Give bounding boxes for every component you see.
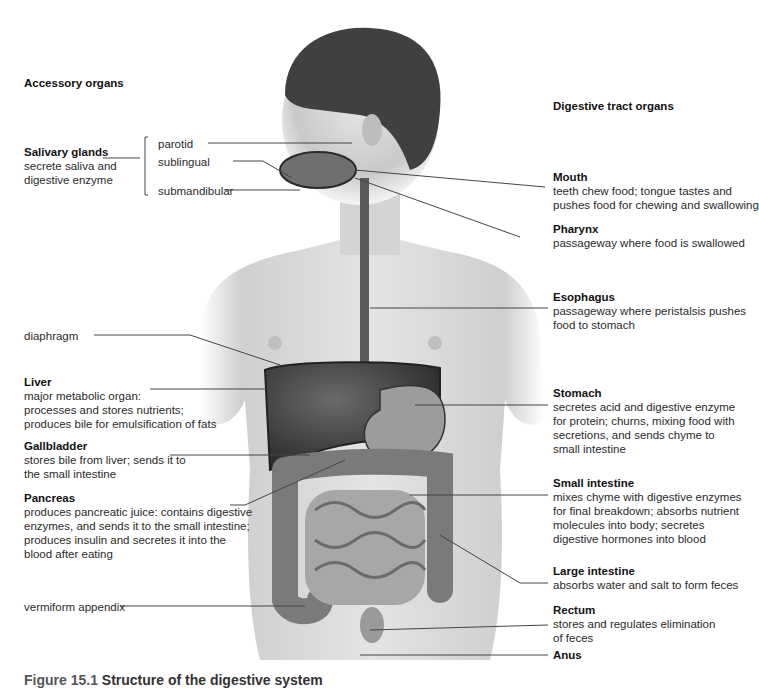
stomach-title: Stomach [553,386,735,400]
digestive-tract-heading: Digestive tract organs [553,100,674,112]
rectum-desc-1: stores and regulates elimination [553,617,715,631]
salivary-desc-1: secrete saliva and [24,159,117,173]
figure-number: Figure 15.1 [24,672,98,688]
mouth-title: Mouth [553,170,759,184]
gallbladder-desc-1: stores bile from liver; sends it to [24,453,186,467]
gallbladder-title: Gallbladder [24,439,186,453]
label-mouth: Mouth teeth chew food; tongue tastes and… [553,170,759,212]
stomach-desc-4: small intestine [553,442,735,456]
rectum-desc-2: of feces [553,631,715,645]
small-intestine-desc-2: for final breakdown; absorbs nutrient [553,504,742,518]
label-sublingual: sublingual [158,155,210,169]
pancreas-desc-1: produces pancreatic juice: contains dige… [24,505,252,519]
label-esophagus: Esophagus passageway where peristalsis p… [553,290,746,332]
esophagus-desc-2: food to stomach [553,318,746,332]
salivary-title: Salivary glands [24,145,117,159]
small-intestine-title: Small intestine [553,476,742,490]
small-intestine-desc-3: molecules into body; secretes [553,518,742,532]
label-small-intestine: Small intestine mixes chyme with digesti… [553,476,742,546]
pancreas-desc-3: produces insulin and secretes it into th… [24,533,252,547]
accessory-organs-heading: Accessory organs [24,77,124,89]
label-salivary-glands: Salivary glands secrete saliva and diges… [24,145,117,187]
large-intestine-title: Large intestine [553,564,738,578]
label-rectum: Rectum stores and regulates elimination … [553,603,715,645]
esophagus-desc-1: passageway where peristalsis pushes [553,304,746,318]
label-parotid: parotid [158,137,193,151]
mouth-desc-1: teeth chew food; tongue tastes and [553,184,759,198]
figure-caption: Figure 15.1 Structure of the digestive s… [24,672,323,688]
pancreas-title: Pancreas [24,491,252,505]
label-gallbladder: Gallbladder stores bile from liver; send… [24,439,186,481]
salivary-desc-2: digestive enzyme [24,173,117,187]
label-stomach: Stomach secretes acid and digestive enzy… [553,386,735,456]
rectum-title: Rectum [553,603,715,617]
pharynx-title: Pharynx [553,222,745,236]
stomach-desc-2: for protein; churns, mixing food with [553,414,735,428]
pancreas-desc-2: enzymes, and sends it to the small intes… [24,519,252,533]
label-liver: Liver major metabolic organ: processes a… [24,375,216,431]
rectum [360,607,384,643]
label-large-intestine: Large intestine absorbs water and salt t… [553,564,738,592]
figure-caption-text: Structure of the digestive system [102,672,323,688]
liver-desc-1: major metabolic organ: [24,389,216,403]
esophagus [360,178,369,368]
anus-title: Anus [553,648,582,662]
gallbladder-desc-2: the small intestine [24,467,186,481]
mouth-cavity [280,152,356,188]
liver-desc-2: processes and stores nutrients; [24,403,216,417]
label-submandibular: submandibular [158,184,233,198]
stomach-desc-1: secretes acid and digestive enzyme [553,400,735,414]
liver-desc-3: produces bile for emulsification of fats [24,417,216,431]
esophagus-title: Esophagus [553,290,746,304]
small-intestine-desc-4: digestive hormones into blood [553,532,742,546]
label-pharynx: Pharynx passageway where food is swallow… [553,222,745,250]
small-intestine-desc-1: mixes chyme with digestive enzymes [553,490,742,504]
label-anus: Anus [553,648,582,662]
large-intestine-desc-1: absorbs water and salt to form feces [553,578,738,592]
pharynx-desc-1: passageway where food is swallowed [553,236,745,250]
stomach-desc-3: secretions, and sends chyme to [553,428,735,442]
pancreas-desc-4: blood after eating [24,547,252,561]
liver-title: Liver [24,375,216,389]
label-vermiform-appendix: vermiform appendix [24,600,125,614]
label-pancreas: Pancreas produces pancreatic juice: cont… [24,491,252,561]
mouth-desc-2: pushes food for chewing and swallowing [553,198,759,212]
label-diaphragm: diaphragm [24,329,78,343]
